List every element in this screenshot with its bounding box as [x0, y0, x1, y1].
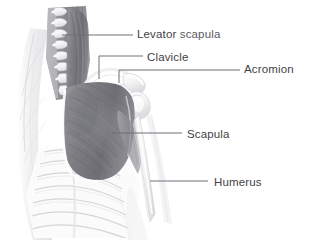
label-levator-scapula-tail: scapula	[176, 28, 220, 40]
label-acromion-text: Acromion	[244, 63, 294, 75]
label-scapula-text: Scapula	[187, 128, 230, 140]
label-clavicle: Clavicle	[147, 52, 188, 64]
label-levator-scapula-lead: Levator	[137, 28, 176, 40]
leader-line-clavicle	[99, 56, 143, 79]
leader-line-acromion	[119, 70, 240, 83]
label-clavicle-text: Clavicle	[147, 51, 188, 63]
label-levator-scapula: Levator scapula	[137, 29, 220, 41]
label-scapula: Scapula	[187, 129, 230, 141]
anatomy-figure: Levator scapula Clavicle Acromion Scapul…	[0, 0, 314, 241]
label-acromion: Acromion	[244, 64, 294, 76]
label-humerus: Humerus	[214, 177, 262, 189]
label-humerus-text: Humerus	[214, 176, 262, 188]
